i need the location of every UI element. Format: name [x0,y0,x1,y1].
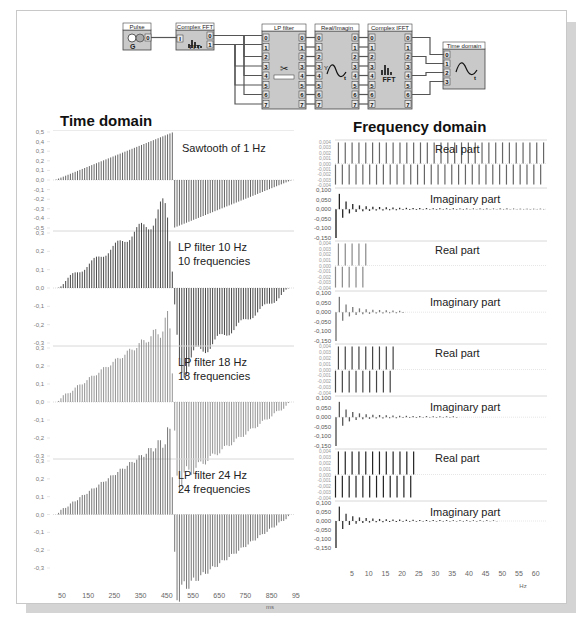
time-panel-3: 0,30,20,10,0-0,1-0,2-0,3LP filter 24 Hz2… [34,427,294,601]
y-tick-label: 0,003 [319,350,331,355]
y-tick-label: 0,000 [319,368,331,373]
y-tick-label: -0,2 [34,196,45,202]
y-tick-label: 0,002 [319,461,331,466]
y-tick-label: -0,2 [34,547,45,553]
y-tick-label: 0,004 [319,241,331,246]
x-tick-label: 55 [515,570,523,577]
panel-label: Imaginary part [430,401,500,413]
wire [235,45,262,67]
wire [412,82,444,95]
x-axis-label: Hz [519,583,526,589]
y-tick-label: 0,003 [319,455,331,460]
frequency-domain-chart: 0,0040,0030,0020,0010,000-0,001-0,002-0,… [290,130,570,610]
pulse-block[interactable]: PulseG0 [123,23,151,50]
y-tick-label: 0,4 [36,139,45,145]
y-tick-label: -0,002 [317,379,331,384]
y-tick-label: -0,2 [34,322,45,328]
svg-text:t: t [474,75,476,81]
panel-label: Imaginary part [430,296,500,308]
freq-panel-7: 0,1000,0500,000-0,050-0,100-0,150Imagina… [314,500,547,551]
time-domain-heading: Time domain [60,112,152,129]
panel-label: Imaginary part [430,506,500,518]
time-panel-2: 0,30,20,10,0-0,1-0,2-0,3LP filter 18 Hz1… [34,311,294,493]
y-tick-label: 0,000 [316,518,332,524]
panel-annotation: LP filter 18 Hz [178,356,247,368]
y-tick-label: 0,100 [316,395,332,401]
real-imagin-block[interactable]: Real/Imagin0011223344556677Yt [315,24,359,109]
y-tick-label: 0,3 [36,148,45,154]
y-tick-label: 0,000 [319,473,331,478]
x-tick-label: 650 [213,592,225,599]
y-tick-label: -0,003 [317,280,331,285]
freq-panel-0: 0,0040,0030,0020,0010,000-0,001-0,002-0,… [317,140,547,188]
y-tick-label: -0,050 [314,527,332,533]
y-tick-label: 0,3 [36,230,45,236]
panel-annotation: 24 frequencies [178,483,251,495]
freq-panel-2: 0,0040,0030,0020,0010,000-0,001-0,002-0,… [317,241,547,291]
x-tick-label: 850 [266,592,278,599]
y-tick-label: -0,3 [34,206,45,212]
wire [412,73,444,76]
x-tick-label: 50 [498,570,506,577]
y-tick-label: -0,050 [314,319,332,325]
y-tick-label: -0,002 [317,275,331,280]
complex-ifft-block[interactable]: Complex IFFT0011223344556677FFT [368,24,412,109]
y-tick-label: 0,001 [319,362,331,367]
y-tick-label: 0,100 [316,187,332,193]
y-tick-label: -0,4 [34,215,45,221]
y-tick-label: -0,1 [34,187,45,193]
y-tick-label: 0,1 [36,494,45,500]
y-tick-label: -0,2 [34,435,45,441]
block-title: Pulse [129,24,145,30]
time-domain-block[interactable]: Time domain0123t [443,42,485,89]
x-tick-label: 450 [161,592,173,599]
svg-text:t: t [344,75,346,81]
y-tick-label: -0,3 [34,565,45,571]
time-domain-chart: 0,50,40,30,20,10,0-0,1-0,2-0,3-0,4-0,5Sa… [0,130,300,610]
y-tick-label: 0,2 [36,476,45,482]
y-tick-label: 0,3 [36,345,45,351]
y-tick-label: 0,2 [36,248,45,254]
svg-text:FFT: FFT [190,44,201,50]
y-tick-label: -0,1 [34,303,45,309]
panel-label: Real part [435,347,480,359]
y-tick-label: 0,0 [36,177,45,183]
x-tick-label: 50 [58,592,66,599]
y-tick-label: -0,001 [317,373,331,378]
block-title: Real/Imagin [321,25,353,31]
y-tick-label: 0,000 [319,162,331,167]
y-tick-label: 0,000 [316,206,332,212]
y-tick-label: 0,004 [319,449,331,454]
x-tick-label: 60 [532,570,540,577]
block-title: Time domain [447,43,481,49]
wire [244,36,262,57]
complex-fft-block[interactable]: Complex FFTIFFT01 [176,23,214,50]
y-tick-label: 0,050 [316,197,332,203]
y-tick-label: 0,004 [319,344,331,349]
y-tick-label: -0,100 [314,433,332,439]
y-tick-label: 0,000 [316,414,332,420]
y-tick-label: 0,0 [36,399,45,405]
wire [412,57,444,64]
time-panel-1: 0,30,20,10,0-0,1-0,2-0,3LP filter 10 Hz1… [34,198,294,377]
lp-filter-block[interactable]: LP filter0011223344556677✂ [262,24,306,109]
freq-panel-4: 0,0040,0030,0020,0010,000-0,001-0,002-0,… [317,344,547,396]
svg-text:G: G [130,43,136,50]
y-tick-label: -0,001 [317,478,331,483]
panel-label: Real part [435,452,480,464]
y-tick-label: -0,050 [314,424,332,430]
y-tick-label: 0,001 [319,258,331,263]
x-tick-label: 25 [415,570,423,577]
y-tick-label: 0,003 [319,145,331,150]
y-tick-label: -0,003 [317,490,331,495]
freq-x-axis: 51015202530354045505560Hz [350,570,540,589]
block-title: LP filter [274,25,294,31]
freq-panel-6: 0,0040,0030,0020,0010,000-0,001-0,002-0,… [317,449,547,501]
svg-text:FFT: FFT [383,76,397,83]
y-tick-label: -0,001 [317,167,331,172]
y-tick-label: 0,1 [36,381,45,387]
flow-diagram: PulseG0Complex FFTIFFT01LP filter0011223… [0,0,586,120]
y-tick-label: 0,050 [316,300,332,306]
x-tick-label: 350 [135,592,147,599]
x-tick-label: 20 [398,570,406,577]
